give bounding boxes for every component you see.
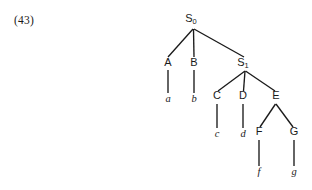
- node-S1: S1: [237, 56, 249, 70]
- tree-edge-S0-S1: [194, 29, 244, 57]
- tree-edge-S0-A: [168, 29, 193, 57]
- tree-edge-S1-C: [218, 71, 245, 91]
- tree-edge-S1-E: [246, 71, 276, 91]
- node-B: B: [190, 56, 197, 68]
- terminal-g: g: [291, 166, 296, 177]
- terminal-f: f: [258, 166, 263, 177]
- tree-edge-E-G: [276, 104, 293, 127]
- terminal-c: c: [215, 128, 220, 139]
- syntax-tree-figure: (43) S0ABS1CDEFGabcdfg: [0, 0, 312, 190]
- terminal-d: d: [240, 128, 246, 139]
- node-E: E: [272, 89, 279, 101]
- node-D: D: [239, 89, 247, 101]
- node-C: C: [213, 89, 221, 101]
- terminal-b: b: [191, 93, 196, 104]
- terminal-a: a: [165, 93, 170, 104]
- node-A: A: [164, 56, 172, 68]
- tree-edge-S1-D: [244, 71, 246, 91]
- tree-edge-E-F: [260, 104, 276, 127]
- tree-nodes: S0ABS1CDEFGabcdfg: [164, 12, 298, 177]
- tree-edge-S0-B: [194, 29, 195, 57]
- node-F: F: [256, 125, 263, 137]
- tree-diagram: S0ABS1CDEFGabcdfg: [0, 0, 312, 190]
- node-G: G: [290, 125, 299, 137]
- node-S0: S0: [185, 12, 197, 26]
